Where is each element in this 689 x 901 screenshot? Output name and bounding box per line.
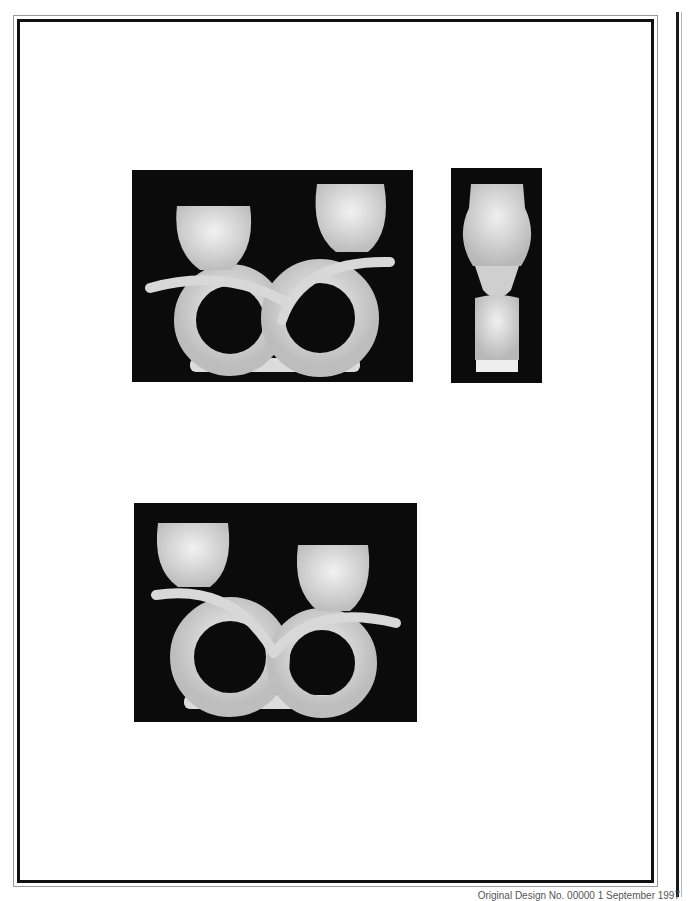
figure-front-view bbox=[132, 170, 413, 382]
page-frame-inner bbox=[17, 19, 654, 883]
candle-holder-rear-illustration bbox=[134, 503, 417, 722]
candle-holder-front-illustration bbox=[132, 170, 413, 382]
figure-rear-view bbox=[134, 503, 417, 722]
candle-holder-side-illustration bbox=[451, 168, 542, 383]
page-edge-line bbox=[676, 12, 679, 897]
figure-side-view bbox=[451, 168, 542, 383]
page-edge-line-light bbox=[681, 12, 682, 897]
footer-text: Original Design No. 00000 1 September 19… bbox=[410, 890, 680, 901]
